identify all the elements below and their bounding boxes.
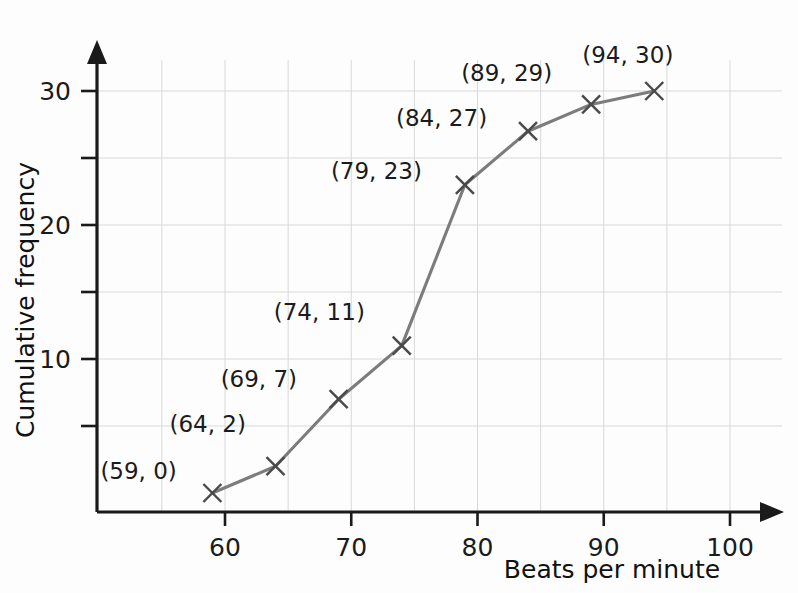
- data-point-label: (94, 30): [582, 42, 673, 68]
- y-tick-label-20: 20: [39, 211, 71, 240]
- y-tick-label-30: 30: [39, 77, 71, 106]
- x-axis-arrow-icon: [760, 502, 784, 522]
- y-tick-label-10: 10: [39, 345, 71, 374]
- y-axis-title: Cumulative frequency: [11, 162, 40, 438]
- tick-marks: [81, 91, 730, 526]
- data-point-label: (74, 11): [274, 299, 365, 325]
- data-point-marker: [330, 390, 348, 408]
- data-point-label: (84, 27): [396, 105, 487, 131]
- data-point-marker: [267, 457, 285, 475]
- y-axis-arrow-icon: [87, 40, 107, 64]
- x-tick-label-60: 60: [209, 533, 241, 562]
- tick-labels: 60708090100102030: [39, 77, 754, 562]
- data-point-marker: [203, 484, 221, 502]
- data-point-label: (79, 23): [331, 158, 422, 184]
- data-point-label: (59, 0): [100, 458, 176, 484]
- x-tick-label-70: 70: [335, 533, 367, 562]
- data-point-marker: [519, 122, 537, 140]
- data-point-marker: [393, 337, 411, 355]
- data-point-label: (69, 7): [221, 366, 297, 392]
- data-point-marker: [456, 176, 474, 194]
- data-point-label: (89, 29): [461, 60, 552, 86]
- cumulative-frequency-chart: 60708090100102030 (59, 0)(64, 2)(69, 7)(…: [0, 0, 798, 593]
- x-axis-title: Beats per minute: [504, 555, 720, 584]
- chart-canvas: 60708090100102030 (59, 0)(64, 2)(69, 7)(…: [0, 0, 798, 593]
- x-tick-label-80: 80: [462, 533, 494, 562]
- data-point-label: (64, 2): [170, 411, 246, 437]
